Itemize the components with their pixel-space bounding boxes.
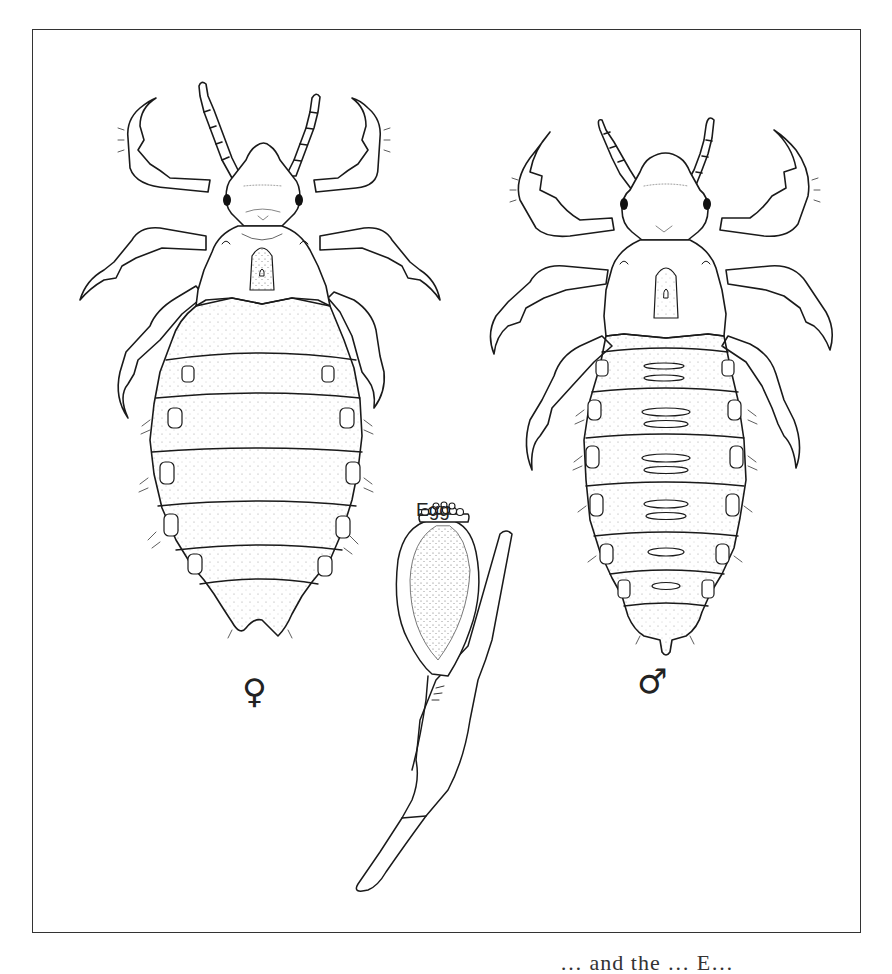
male-eye-left (620, 198, 628, 210)
male-symbol: ♂ (637, 664, 667, 698)
caption-cutoff: … and the … E… (560, 950, 734, 974)
male-louse (490, 118, 832, 655)
female-head (226, 143, 300, 226)
egg-on-hair (356, 502, 512, 891)
male-abdomen (584, 334, 746, 655)
female-louse (80, 82, 440, 638)
male-thorax-plate (654, 268, 678, 318)
male-eye-right (703, 198, 711, 210)
female-eye-left (223, 194, 231, 206)
female-abdomen (150, 298, 362, 636)
egg-label: Egg (416, 499, 450, 521)
female-symbol: ♀ (242, 674, 267, 708)
female-eye-right (295, 194, 303, 206)
